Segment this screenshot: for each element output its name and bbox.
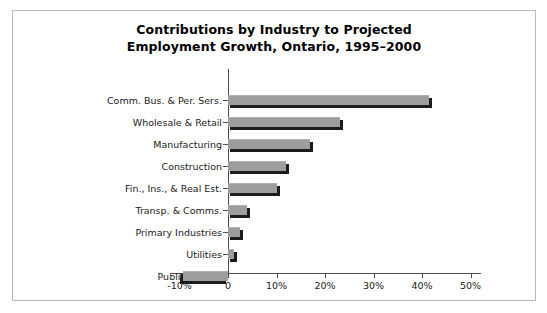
category-label-row: Comm. Bus. & Per. Sers. bbox=[18, 95, 222, 106]
category-label: Wholesale & Retail bbox=[22, 117, 222, 128]
x-tick-label: 50% bbox=[441, 280, 501, 291]
category-label-row: Construction bbox=[18, 161, 222, 172]
chart-figure: Contributions by Industry to Projected E… bbox=[12, 10, 536, 301]
bar bbox=[228, 139, 310, 149]
x-tick-mark bbox=[325, 273, 326, 278]
x-tick-mark bbox=[471, 273, 472, 278]
x-tick-mark bbox=[374, 273, 375, 278]
bar bbox=[228, 161, 286, 171]
category-label: Transp. & Comms. bbox=[22, 205, 222, 216]
bar bbox=[228, 117, 340, 127]
x-tick-mark bbox=[180, 273, 181, 278]
x-tick-mark bbox=[228, 273, 229, 278]
category-label-row: Transp. & Comms. bbox=[18, 205, 222, 216]
category-label-row: Manufacturing bbox=[18, 139, 222, 150]
plot-area: Comm. Bus. & Per. Sers. Wholesale & Reta… bbox=[13, 11, 537, 302]
category-label: Comm. Bus. & Per. Sers. bbox=[22, 95, 222, 106]
bar bbox=[228, 227, 240, 237]
category-label-row: Utilities bbox=[18, 249, 222, 260]
category-label-row: Primary Industries bbox=[18, 227, 222, 238]
x-tick-mark bbox=[422, 273, 423, 278]
category-label: Construction bbox=[22, 161, 222, 172]
category-label: Manufacturing bbox=[22, 139, 222, 150]
category-label: Fin., Ins., & Real Est. bbox=[22, 183, 222, 194]
category-label: Primary Industries bbox=[22, 227, 222, 238]
bar bbox=[228, 183, 277, 193]
bar bbox=[228, 249, 234, 259]
bar bbox=[228, 95, 429, 105]
bar bbox=[228, 205, 247, 215]
category-label-row: Fin., Ins., & Real Est. bbox=[18, 183, 222, 194]
category-label-row: Wholesale & Retail bbox=[18, 117, 222, 128]
x-tick-mark bbox=[277, 273, 278, 278]
category-label: Utilities bbox=[22, 249, 222, 260]
